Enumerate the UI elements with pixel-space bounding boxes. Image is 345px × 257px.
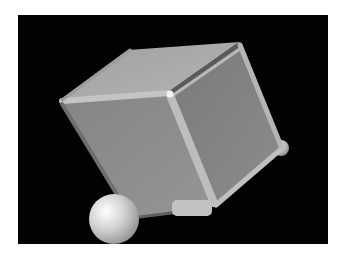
cube: [60, 42, 283, 218]
large-sphere: [89, 194, 139, 244]
cube-bottom-bracket: [172, 200, 212, 216]
cube-corner-highlight: [167, 91, 174, 98]
scene-svg: [0, 0, 345, 257]
